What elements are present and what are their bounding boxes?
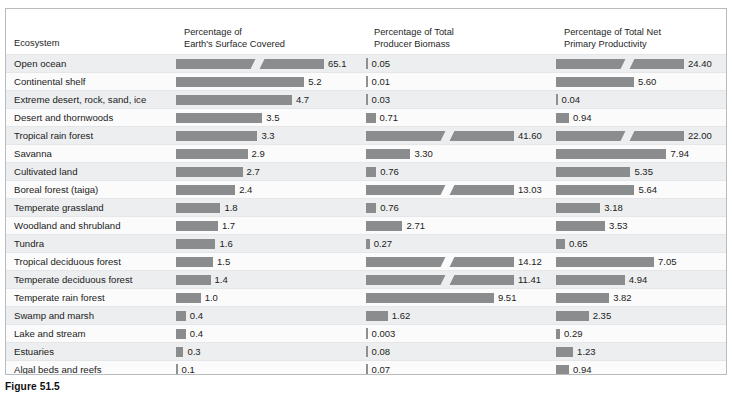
- value-bar: [556, 149, 666, 159]
- value-bar: [366, 239, 370, 249]
- bar-cell: 0.4: [176, 307, 366, 325]
- bar-cell: 0.27: [366, 235, 556, 253]
- bar-cell: 1.6: [176, 235, 366, 253]
- value-bar: [176, 131, 257, 141]
- value-bar: [176, 59, 324, 69]
- value-bar: [366, 293, 494, 303]
- bar-cell: 5.2: [176, 73, 366, 91]
- value-bar: [556, 329, 560, 339]
- value-label: 0.94: [573, 364, 592, 375]
- value-label: 3.82: [613, 292, 632, 303]
- ecosystem-name: Lake and stream: [6, 328, 176, 339]
- value-bar: [366, 203, 376, 213]
- value-label: 0.65: [569, 238, 588, 249]
- ecosystem-name: Continental shelf: [6, 76, 176, 87]
- value-bar: [556, 77, 634, 87]
- value-tick-mark: [366, 76, 368, 87]
- value-label: 24.40: [688, 58, 712, 69]
- value-bar: [556, 311, 589, 321]
- ecosystem-name: Algal beds and reefs: [6, 364, 176, 375]
- ecosystem-name: Temperate deciduous forest: [6, 274, 176, 285]
- bar-cell: 5.60: [556, 73, 726, 91]
- value-label: 0.1: [182, 364, 195, 375]
- column-header-biomass: Percentage of Total Producer Biomass: [366, 27, 556, 54]
- bar-cell: 0.71: [366, 109, 556, 127]
- table-row: Swamp and marsh0.41.622.35: [6, 306, 726, 324]
- bar-cell: 4.94: [556, 271, 726, 289]
- value-label: 1.23: [577, 346, 596, 357]
- bar-cell: 11.41: [366, 271, 556, 289]
- value-label: 5.2: [308, 76, 321, 87]
- value-label: 1.6: [219, 238, 232, 249]
- value-tick-mark: [366, 94, 368, 105]
- table-row: Woodland and shrubland1.72.713.53: [6, 216, 726, 234]
- bar-cell: 0.94: [556, 361, 726, 376]
- value-label: 1.5: [217, 256, 230, 267]
- bar-cell: 2.35: [556, 307, 726, 325]
- value-bar: [556, 257, 654, 267]
- table-row: Continental shelf5.20.015.60: [6, 72, 726, 90]
- bar-cell: 4.7: [176, 91, 366, 109]
- bar-cell: 0.08: [366, 343, 556, 361]
- ecosystem-name: Temperate grassland: [6, 202, 176, 213]
- value-bar: [176, 203, 220, 213]
- value-label: 7.05: [658, 256, 677, 267]
- value-bar: [556, 113, 569, 123]
- value-bar: [366, 311, 388, 321]
- bar-cell: 5.35: [556, 163, 726, 181]
- figure-container: Ecosystem Percentage of Earth's Surface …: [0, 0, 732, 401]
- value-label: 41.60: [518, 130, 542, 141]
- value-bar: [556, 59, 684, 69]
- value-label: 0.27: [374, 238, 393, 249]
- value-bar: [176, 113, 262, 123]
- table-row: Temperate rain forest1.09.513.82: [6, 288, 726, 306]
- data-table: Ecosystem Percentage of Earth's Surface …: [5, 8, 727, 375]
- value-bar: [366, 113, 376, 123]
- table-row: Tropical deciduous forest1.514.127.05: [6, 252, 726, 270]
- value-label: 0.04: [562, 94, 581, 105]
- ecosystem-name: Tropical rain forest: [6, 130, 176, 141]
- value-label: 2.35: [593, 310, 612, 321]
- bar-cell: 2.7: [176, 163, 366, 181]
- value-label: 9.51: [498, 292, 517, 303]
- bar-cell: 3.18: [556, 199, 726, 217]
- value-label: 3.53: [609, 220, 628, 231]
- value-label: 1.62: [392, 310, 411, 321]
- value-tick-mark: [366, 328, 368, 339]
- value-bar: [366, 131, 514, 141]
- value-tick-mark: [556, 94, 558, 105]
- bar-cell: 65.1: [176, 55, 366, 73]
- bar-cell: 0.76: [366, 163, 556, 181]
- table-row: Tropical rain forest3.341.6022.00: [6, 126, 726, 144]
- value-label: 1.8: [224, 202, 237, 213]
- value-label: 4.7: [296, 94, 309, 105]
- value-label: 13.03: [518, 184, 542, 195]
- ecosystem-name: Tundra: [6, 238, 176, 249]
- ecosystem-name: Tropical deciduous forest: [6, 256, 176, 267]
- bar-cell: 1.23: [556, 343, 726, 361]
- bar-cell: 0.07: [366, 361, 556, 376]
- column-header-npp-line1: Percentage of Total Net: [564, 27, 726, 38]
- value-tick-mark: [366, 346, 368, 357]
- table-row: Temperate deciduous forest1.411.414.94: [6, 270, 726, 288]
- bar-cell: 0.3: [176, 343, 366, 361]
- bar-cell: 0.1: [176, 361, 366, 376]
- value-label: 0.29: [564, 328, 583, 339]
- value-bar: [556, 167, 630, 177]
- value-label: 2.4: [239, 184, 252, 195]
- ecosystem-name: Savanna: [6, 148, 176, 159]
- table-body: Open ocean65.10.0524.40Continental shelf…: [6, 54, 726, 375]
- value-label: 2.9: [252, 148, 265, 159]
- value-tick-mark: [366, 58, 368, 69]
- value-label: 2.7: [247, 166, 260, 177]
- bar-cell: 41.60: [366, 127, 556, 145]
- value-label: 0.003: [372, 328, 396, 339]
- bar-cell: 1.7: [176, 217, 366, 235]
- value-bar: [556, 347, 573, 357]
- value-bar: [366, 185, 514, 195]
- column-header-biomass-line2: Producer Biomass: [374, 39, 556, 50]
- table-row: Desert and thornwoods3.50.710.94: [6, 108, 726, 126]
- table-row: Temperate grassland1.80.763.18: [6, 198, 726, 216]
- value-label: 22.00: [688, 130, 712, 141]
- column-header-surface: Percentage of Earth's Surface Covered: [176, 27, 366, 54]
